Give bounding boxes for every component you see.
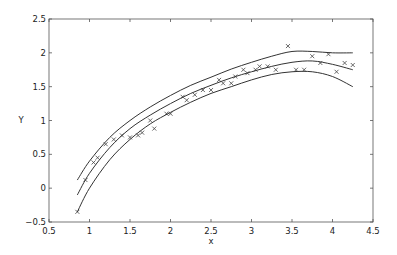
y-tick-label: 2	[41, 48, 46, 58]
x-tick-label: 2	[168, 226, 173, 236]
figure-background	[0, 0, 397, 255]
y-tick-label: 1.5	[32, 82, 46, 92]
x-tick-label: 0.5	[42, 226, 56, 236]
y-tick-label: 0.5	[32, 149, 46, 159]
y-tick-label: 0	[41, 183, 46, 193]
x-tick-label: 1	[87, 226, 92, 236]
y-axis-label: Y	[17, 115, 24, 125]
y-tick-label: 1	[41, 116, 46, 126]
x-tick-label: 3.5	[285, 226, 299, 236]
x-tick-label: 3	[249, 226, 254, 236]
chart-figure: 0.511.522.533.544.5 −0.500.511.522.5 x Y	[0, 0, 397, 255]
x-tick-label: 2.5	[204, 226, 218, 236]
y-tick-label: −0.5	[25, 217, 46, 227]
x-tick-label: 4.5	[366, 226, 380, 236]
x-axis-label: x	[208, 236, 213, 246]
x-tick-label: 1.5	[123, 226, 137, 236]
y-tick-label: 2.5	[32, 14, 46, 24]
x-tick-label: 4	[330, 226, 335, 236]
